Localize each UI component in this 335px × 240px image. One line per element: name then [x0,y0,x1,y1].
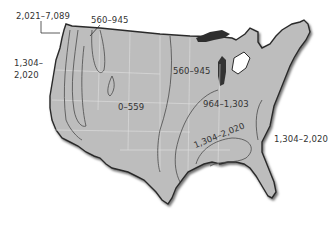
label-great-plains: 560–945 [173,66,210,76]
leader-line-rockies [88,24,102,38]
leader-line-nw [40,20,64,36]
label-interior-west: 0–559 [118,102,144,112]
label-west-coast-line2: 2,020 [14,70,39,80]
label-midwest-east: 964–1,303 [203,99,249,109]
us-landmass [50,20,310,204]
label-southeast-coast: 1,304–2,020 [274,134,328,144]
label-west-coast-line1: 1,304– [14,58,43,68]
